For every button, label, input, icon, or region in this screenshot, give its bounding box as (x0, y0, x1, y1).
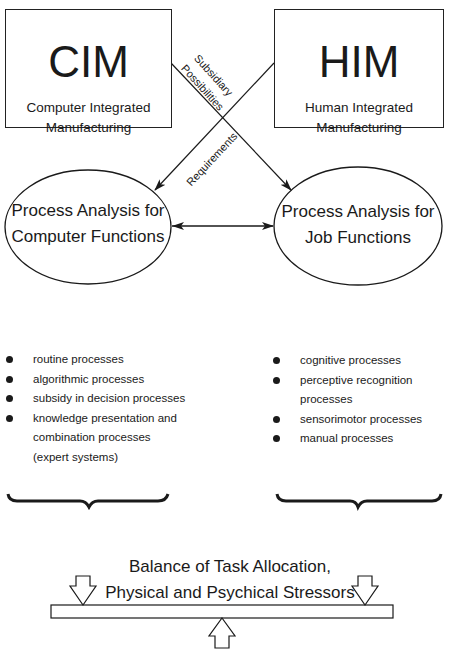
job-functions-line1: Process Analysis for (274, 199, 442, 225)
job-functions-label: Process Analysis for Job Functions (274, 199, 442, 251)
bullet-icon (6, 356, 13, 363)
cim-box: CIM Computer Integrated Manufacturing (5, 9, 172, 128)
balance-title: Balance of Task Allocation, Physical and… (80, 554, 380, 606)
him-subtitle-line2: Manufacturing (275, 118, 443, 138)
bullet-icon (273, 416, 280, 423)
list-item: manual processes (273, 429, 467, 449)
job-process-list: cognitive processes perceptive recogniti… (273, 351, 467, 449)
fulcrum-up-arrow-icon (209, 618, 235, 648)
cim-subtitle: Computer Integrated Manufacturing (6, 98, 171, 138)
list-item: routine processes (6, 350, 236, 370)
him-title: HIM (275, 40, 443, 84)
balance-title-line1: Balance of Task Allocation, (80, 554, 380, 580)
list-item: algorithmic processes (6, 370, 236, 390)
cim-subtitle-line2: Manufacturing (6, 118, 171, 138)
bullet-icon (273, 377, 280, 384)
job-functions-line2: Job Functions (274, 225, 442, 251)
brace-left-icon (8, 494, 168, 507)
list-item: sensorimotor processes (273, 410, 467, 430)
balance-title-line2: Physical and Psychical Stressors (80, 580, 380, 606)
him-subtitle: Human Integrated Manufacturing (275, 98, 443, 138)
list-item: cognitive processes (273, 351, 467, 371)
him-box: HIM Human Integrated Manufacturing (274, 9, 444, 128)
list-item: knowledge presentation and combination p… (6, 409, 236, 468)
bullet-icon (273, 435, 280, 442)
brace-right-icon (277, 494, 441, 507)
him-subtitle-line1: Human Integrated (275, 98, 443, 118)
list-item: perceptive recognition processes (273, 371, 467, 410)
bullet-icon (6, 415, 13, 422)
bullet-icon (6, 395, 13, 402)
computer-functions-line1: Process Analysis for (5, 198, 171, 224)
computer-functions-label: Process Analysis for Computer Functions (5, 198, 171, 250)
balance-beam (51, 605, 393, 618)
bullet-icon (273, 357, 280, 364)
cim-subtitle-line1: Computer Integrated (6, 98, 171, 118)
bullet-icon (6, 376, 13, 383)
computer-process-list: routine processes algorithmic processes … (6, 350, 236, 467)
computer-functions-line2: Computer Functions (5, 224, 171, 250)
list-item: subsidy in decision processes (6, 389, 236, 409)
cim-title: CIM (6, 40, 171, 84)
